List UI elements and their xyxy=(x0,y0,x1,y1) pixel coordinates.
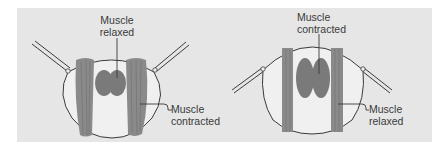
right-lens-lobe-left xyxy=(296,58,314,98)
right-top-label: Muscle xyxy=(297,11,330,23)
left-pipette-tip-right xyxy=(153,68,157,72)
right-side-label-line2: relaxed xyxy=(369,115,404,127)
right-pipette-tip-right xyxy=(361,67,365,71)
left-side-label: Muscle xyxy=(171,103,204,115)
muscle-diagram: Muscle relaxed Muscle contracted xyxy=(0,0,441,149)
right-muscle-band-right xyxy=(331,48,343,132)
right-side-label: Muscle xyxy=(369,103,402,115)
right-pipette-tip-left xyxy=(261,67,265,71)
left-side-label-line2: contracted xyxy=(171,115,220,127)
right-lens-lobe-right xyxy=(312,58,330,98)
left-pipette-tip-left xyxy=(66,69,70,73)
left-top-label-line2: relaxed xyxy=(100,26,135,38)
left-top-label: Muscle xyxy=(100,14,133,26)
right-eye-outline xyxy=(262,47,363,134)
right-muscle-band-left xyxy=(282,48,293,132)
right-top-label-line2: contracted xyxy=(297,23,346,35)
